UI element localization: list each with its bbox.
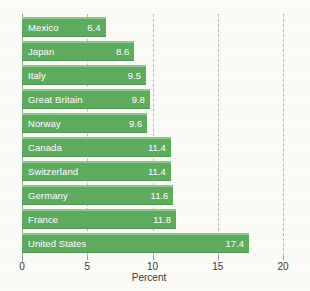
- bar-category-label: Great Britain: [28, 94, 83, 105]
- bar-value-label: 6.4: [87, 22, 100, 33]
- bar-row: Canada11.4: [22, 136, 310, 160]
- tick-label-0: 0: [19, 261, 25, 272]
- tick-mark-20: [283, 256, 284, 260]
- bar-row: Great Britain9.8: [22, 88, 310, 112]
- chart-title-truncated: [6, 0, 186, 5]
- bar: Italy9.5: [22, 65, 146, 85]
- bar-series: Mexico6.4Japan8.6Italy9.5Great Britain9.…: [22, 16, 310, 256]
- bar-row: Japan8.6: [22, 40, 310, 64]
- bar: Japan8.6: [22, 41, 134, 61]
- x-axis-ticks: 05101520: [0, 256, 310, 272]
- tick-label-10: 10: [147, 261, 158, 272]
- tick-mark-5: [87, 256, 88, 260]
- tick-mark-0: [22, 256, 23, 260]
- bar-chart: Mexico6.4Japan8.6Italy9.5Great Britain9.…: [0, 0, 310, 291]
- bar-category-label: Italy: [28, 70, 46, 81]
- bar: Canada11.4: [22, 137, 171, 157]
- tick-mark-15: [218, 256, 219, 260]
- bar: Great Britain9.8: [22, 89, 150, 109]
- bar-category-label: Norway: [28, 118, 61, 129]
- bar-row: Germany11.6: [22, 184, 310, 208]
- bar-row: Norway9.6: [22, 112, 310, 136]
- tick-label-20: 20: [277, 261, 288, 272]
- bar-row: France11.8: [22, 208, 310, 232]
- bar-row: United States17.4: [22, 232, 310, 256]
- bar-category-label: Switzerland: [28, 166, 78, 177]
- bar-value-label: 11.6: [151, 190, 169, 201]
- tick-label-15: 15: [212, 261, 223, 272]
- bar-value-label: 11.4: [148, 142, 166, 153]
- bar-row: Italy9.5: [22, 64, 310, 88]
- bar: Switzerland11.4: [22, 161, 171, 181]
- bar: United States17.4: [22, 233, 249, 253]
- x-axis-label: Percent: [0, 272, 310, 283]
- plot-area: Mexico6.4Japan8.6Italy9.5Great Britain9.…: [0, 14, 310, 256]
- bar-value-label: 17.4: [226, 238, 245, 249]
- bar-category-label: United States: [28, 238, 86, 249]
- bar: Mexico6.4: [22, 17, 106, 37]
- bar-value-label: 11.8: [153, 214, 171, 225]
- bar-row: Switzerland11.4: [22, 160, 310, 184]
- tick-mark-10: [153, 256, 154, 260]
- bar-row: Mexico6.4: [22, 16, 310, 40]
- bar-value-label: 11.4: [148, 166, 166, 177]
- bar: Germany11.6: [22, 185, 173, 205]
- bar-value-label: 9.6: [129, 118, 142, 129]
- bar-category-label: Germany: [28, 190, 68, 201]
- bar-category-label: France: [28, 214, 58, 225]
- bar-value-label: 9.5: [128, 70, 141, 81]
- tick-label-5: 5: [84, 261, 90, 272]
- bar-value-label: 9.8: [132, 94, 145, 105]
- bar-value-label: 8.6: [116, 46, 129, 57]
- bar-category-label: Canada: [28, 142, 62, 153]
- x-axis-label-text: Percent: [132, 272, 166, 283]
- bar-category-label: Mexico: [28, 22, 59, 33]
- bar: Norway9.6: [22, 113, 147, 133]
- bar: France11.8: [22, 209, 176, 229]
- bar-category-label: Japan: [28, 46, 54, 57]
